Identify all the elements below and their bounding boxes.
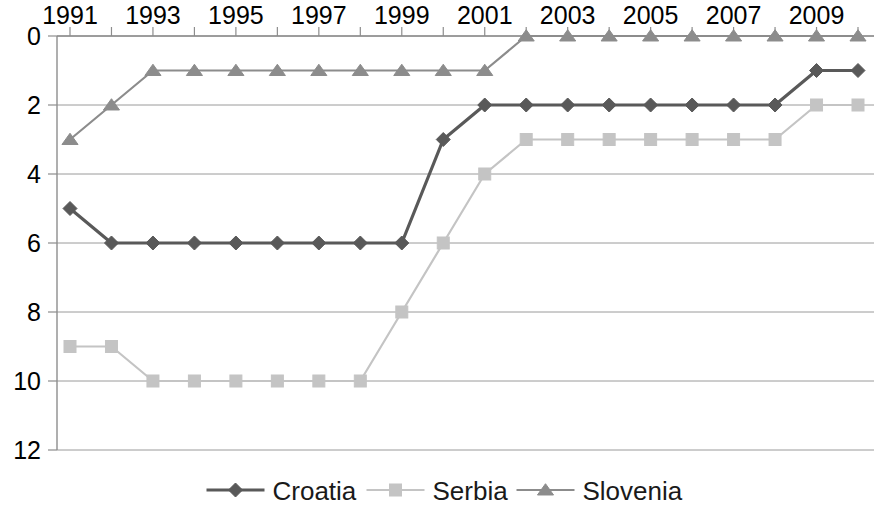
y-axis-tick-label: 2 — [27, 91, 41, 119]
y-axis-tick-label: 8 — [27, 298, 41, 326]
line-chart: 1991199319951997199920012003200520072009… — [0, 0, 878, 505]
data-point-marker — [727, 98, 741, 112]
x-axis-tick-label: 1999 — [374, 1, 430, 29]
y-axis-tick-label: 4 — [27, 160, 41, 188]
chart-legend: CroatiaSerbiaSlovenia — [207, 476, 683, 505]
x-axis-tick-label: 2009 — [789, 1, 845, 29]
legend-label: Slovenia — [583, 476, 683, 505]
x-axis-tick-labels: 1991199319951997199920012003200520072009 — [42, 1, 844, 29]
data-point-marker — [396, 306, 408, 318]
data-point-marker — [390, 484, 402, 496]
data-point-marker — [230, 375, 242, 387]
data-point-marker — [105, 341, 117, 353]
data-point-marker — [685, 98, 699, 112]
data-point-marker — [146, 236, 160, 250]
data-point-marker — [562, 134, 574, 146]
y-axis-tick-label: 12 — [13, 436, 41, 464]
legend-item-croatia[interactable]: Croatia — [207, 476, 357, 505]
data-point-marker — [769, 134, 781, 146]
x-axis-tick-label: 1993 — [125, 1, 181, 29]
x-axis-tick-label: 2007 — [706, 1, 762, 29]
x-axis-tick-label: 1997 — [291, 1, 347, 29]
data-point-marker — [395, 236, 409, 250]
data-point-marker — [270, 236, 284, 250]
legend-item-slovenia[interactable]: Slovenia — [517, 476, 683, 505]
data-point-marker — [354, 375, 366, 387]
data-point-marker — [602, 98, 616, 112]
data-point-marker — [851, 64, 865, 78]
legend-item-serbia[interactable]: Serbia — [367, 476, 509, 505]
legend-label: Serbia — [433, 476, 509, 505]
data-point-marker — [312, 236, 326, 250]
data-point-marker — [686, 134, 698, 146]
series-line — [70, 71, 858, 244]
data-point-marker — [147, 375, 159, 387]
data-point-marker — [313, 375, 325, 387]
y-axis-tick-labels: 024681012 — [13, 22, 41, 464]
data-point-marker — [437, 237, 449, 249]
x-axis-tick-label: 1995 — [208, 1, 264, 29]
data-point-marker — [187, 236, 201, 250]
data-point-marker — [852, 99, 864, 111]
data-point-marker — [811, 99, 823, 111]
y-axis-tick-label: 0 — [27, 22, 41, 50]
y-axis-tick-label: 6 — [27, 229, 41, 257]
x-axis-tick-label: 1991 — [42, 1, 98, 29]
data-point-marker — [519, 98, 533, 112]
data-point-marker — [728, 134, 740, 146]
data-point-marker — [64, 341, 76, 353]
x-axis-tick-label: 2001 — [457, 1, 513, 29]
data-point-marker — [479, 168, 491, 180]
data-point-marker — [561, 98, 575, 112]
data-series-layer — [62, 30, 866, 387]
data-point-marker — [229, 236, 243, 250]
y-axis-tickmarks — [48, 36, 57, 450]
data-point-marker — [188, 375, 200, 387]
x-axis-tick-label: 2003 — [540, 1, 596, 29]
data-point-marker — [645, 134, 657, 146]
legend-label: Croatia — [273, 476, 357, 505]
data-point-marker — [353, 236, 367, 250]
x-axis-tick-label: 2005 — [623, 1, 679, 29]
data-point-marker — [520, 134, 532, 146]
data-point-marker — [229, 483, 243, 497]
chart-canvas: 1991199319951997199920012003200520072009… — [0, 0, 878, 505]
series-slovenia — [62, 30, 866, 145]
data-point-marker — [603, 134, 615, 146]
data-point-marker — [271, 375, 283, 387]
data-point-marker — [644, 98, 658, 112]
y-axis-tick-label: 10 — [13, 367, 41, 395]
series-croatia — [63, 64, 865, 251]
